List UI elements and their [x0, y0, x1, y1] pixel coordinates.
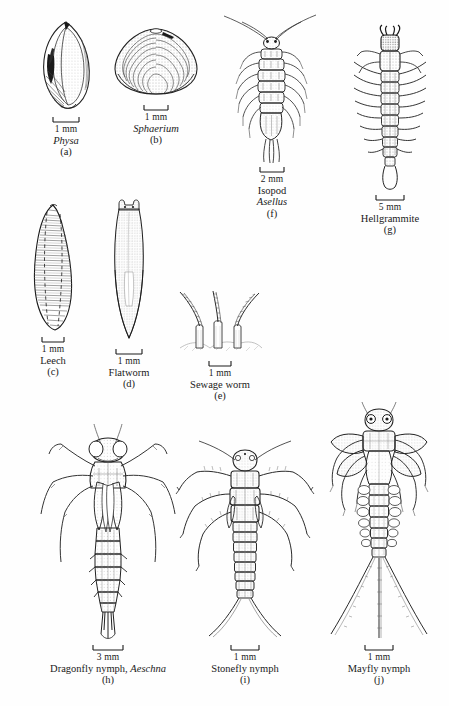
dragonfly-genus-text: Aeschna [130, 663, 166, 674]
caption-flatworm: 1 mm Flatworm (d) [109, 356, 150, 390]
scale-label-leech: 1 mm [40, 344, 66, 355]
clam-shell-icon [110, 22, 202, 102]
snail-shell-icon [35, 18, 97, 114]
isopod-icon [224, 12, 320, 164]
panel-letter-sewage-worm: (e) [190, 390, 250, 402]
scale-bar-isopod [258, 166, 286, 174]
panel-letter-stonefly-nymph: (i) [211, 674, 278, 686]
common-name-dragonfly-nymph: Dragonfly nymph, Aeschna [50, 663, 166, 675]
common-name-hellgrammite: Hellgrammite [361, 213, 419, 225]
scale-bar-physa [51, 116, 81, 124]
flatworm-icon [100, 196, 158, 346]
panel-letter-flatworm: (d) [109, 378, 150, 390]
common-name-isopod: Isopod [257, 185, 287, 197]
scale-bar-dragonfly-nymph [91, 644, 125, 652]
specimen-plate-sewage-worm: 1 mm Sewage worm (e) [168, 290, 272, 402]
panel-letter-leech: (c) [40, 366, 66, 378]
caption-physa: 1 mm Physa (a) [53, 124, 79, 158]
species-name-physa: Physa [53, 135, 79, 147]
specimen-plate-hellgrammite: 5 mm Hellgrammite (g) [340, 22, 440, 236]
scale-label-sewage-worm: 1 mm [190, 368, 250, 379]
specimen-plate-sphaerium: 1 mm Sphaerium (b) [108, 22, 204, 146]
dragonfly-nymph-icon [23, 420, 193, 642]
scale-bar-mayfly-nymph [363, 644, 395, 652]
caption-sewage-worm: 1 mm Sewage worm (e) [190, 368, 250, 402]
common-name-sewage-worm: Sewage worm [190, 379, 250, 391]
caption-leech: 1 mm Leech (c) [40, 344, 66, 378]
scale-label-isopod: 2 mm [257, 174, 287, 185]
sewage-worm-icon [170, 290, 270, 358]
caption-dragonfly-nymph: 3 mm Dragonfly nymph, Aeschna (h) [50, 652, 166, 686]
scale-bar-sphaerium [142, 104, 170, 112]
caption-sphaerium: 1 mm Sphaerium (b) [133, 112, 179, 146]
scale-bar-flatworm [114, 348, 144, 356]
common-name-flatworm: Flatworm [109, 367, 150, 379]
scale-label-flatworm: 1 mm [109, 356, 150, 367]
scale-label-sphaerium: 1 mm [133, 112, 179, 123]
scale-bar-leech [40, 336, 66, 344]
specimen-plate-leech: 1 mm Leech (c) [16, 202, 90, 378]
scale-bar-hellgrammite [374, 194, 406, 202]
caption-isopod: 2 mm Isopod Asellus (f) [257, 174, 287, 220]
scale-label-hellgrammite: 5 mm [361, 202, 419, 213]
panel-letter-sphaerium: (b) [133, 134, 179, 146]
panel-letter-mayfly-nymph: (j) [348, 674, 411, 686]
specimen-plate-stonefly-nymph: 1 mm Stonefly nymph (i) [176, 438, 314, 686]
leech-icon [22, 202, 84, 334]
specimen-plate-physa: 1 mm Physa (a) [26, 18, 106, 158]
figure-canvas: 1 mm Physa (a) [0, 0, 449, 706]
mayfly-nymph-icon [313, 400, 445, 642]
scale-label-mayfly-nymph: 1 mm [348, 652, 411, 663]
caption-stonefly-nymph: 1 mm Stonefly nymph (i) [211, 652, 278, 686]
caption-mayfly-nymph: 1 mm Mayfly nymph (j) [348, 652, 411, 686]
stonefly-nymph-icon [177, 438, 313, 642]
specimen-plate-mayfly-nymph: 1 mm Mayfly nymph (j) [312, 400, 446, 686]
panel-letter-hellgrammite: (g) [361, 224, 419, 236]
scale-bar-stonefly-nymph [229, 644, 261, 652]
panel-letter-dragonfly-nymph: (h) [50, 674, 166, 686]
panel-letter-isopod: (f) [257, 208, 287, 220]
caption-hellgrammite: 5 mm Hellgrammite (g) [361, 202, 419, 236]
panel-letter-physa: (a) [53, 146, 79, 158]
scale-label-dragonfly-nymph: 3 mm [50, 652, 166, 663]
scale-label-physa: 1 mm [53, 124, 79, 135]
hellgrammite-icon [344, 22, 436, 192]
species-name-isopod: Asellus [257, 196, 287, 208]
common-name-stonefly-nymph: Stonefly nymph [211, 663, 278, 675]
dragonfly-common-text: Dragonfly nymph, [50, 663, 128, 674]
scale-label-stonefly-nymph: 1 mm [211, 652, 278, 663]
species-name-sphaerium: Sphaerium [133, 123, 179, 135]
specimen-plate-flatworm: 1 mm Flatworm (d) [92, 196, 166, 390]
common-name-mayfly-nymph: Mayfly nymph [348, 663, 411, 675]
common-name-leech: Leech [40, 355, 66, 367]
scale-bar-sewage-worm [207, 360, 233, 368]
specimen-plate-isopod: 2 mm Isopod Asellus (f) [224, 12, 320, 220]
